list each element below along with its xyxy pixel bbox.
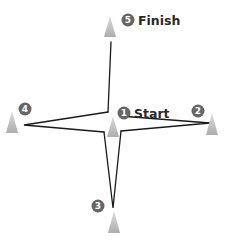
cone-5: 5 Finish (104, 13, 180, 38)
badge-5-number: 5 (125, 15, 131, 25)
badge-4-number: 4 (22, 104, 28, 114)
cone-icon (206, 113, 218, 135)
route-path (24, 42, 210, 208)
cone-icon (6, 111, 18, 133)
badge-1-number: 1 (121, 108, 127, 118)
cone-icon (104, 16, 116, 37)
cone-drill-diagram: 5 Finish 1 Start 2 4 3 (0, 0, 232, 241)
badge-3-number: 3 (95, 201, 101, 211)
cone-icon (108, 211, 120, 233)
finish-label: Finish (138, 13, 180, 28)
cone-1: 1 Start (107, 106, 170, 138)
start-label: Start (134, 106, 170, 121)
cone-2: 2 (192, 105, 219, 136)
cone-4: 4 (6, 103, 32, 134)
cone-3: 3 (92, 200, 121, 234)
cone-icon (107, 116, 119, 137)
badge-2-number: 2 (195, 106, 201, 116)
